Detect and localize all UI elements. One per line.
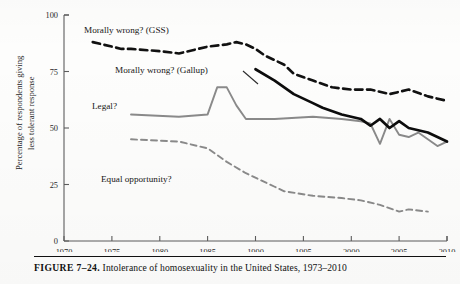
y-axis-title-line1: Percentage of respondents giving [14, 55, 24, 170]
annotation-gallup-leader [243, 71, 258, 84]
line-chart-svg: Percentage of respondents giving less to… [0, 0, 460, 252]
y-axis-title: Percentage of respondents giving less to… [14, 55, 36, 170]
chart-plot-area: Percentage of respondents giving less to… [0, 0, 460, 252]
annotation-gallup: Morally wrong? (Gallup) [115, 65, 208, 75]
figure-caption: FIGURE 7–24. Intolerance of homosexualit… [34, 261, 454, 274]
y-tick-label-75: 75 [50, 68, 58, 77]
annotation-equal-opportunity: Equal opportunity? [101, 174, 172, 184]
annotation-legal: Legal? [92, 101, 117, 111]
figure-caption-bar: FIGURE 7–24. Intolerance of homosexualit… [0, 252, 460, 284]
y-axis-ticks: 0 25 50 75 100 [45, 11, 69, 246]
figure-container: Percentage of respondents giving less to… [0, 0, 460, 284]
x-axis-ticks: 1970 1975 1980 1985 1990 1995 2000 2005 … [56, 236, 456, 252]
series-legal [131, 87, 447, 146]
series-morally-wrong-gallup [256, 69, 448, 141]
y-axis-title-line2: less tolerant response [26, 76, 36, 150]
y-tick-label-0: 0 [54, 237, 58, 246]
y-tick-label-50: 50 [50, 124, 58, 133]
figure-caption-text: Intolerance of homosexuality in the Unit… [103, 262, 347, 273]
y-tick-label-100: 100 [45, 11, 58, 20]
series-equal-opportunity [131, 139, 428, 211]
caption-divider [34, 256, 446, 257]
annotation-gss: Morally wrong? (GSS) [84, 25, 169, 35]
y-tick-label-25: 25 [50, 181, 58, 190]
series-annotations: Morally wrong? (GSS) Morally wrong? (Gal… [84, 25, 258, 184]
figure-number: FIGURE 7–24. [34, 262, 100, 273]
